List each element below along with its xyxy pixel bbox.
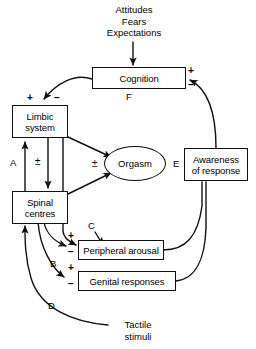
node-cognition-label: Cognition bbox=[119, 73, 158, 84]
edge-awareness-to-cognition bbox=[190, 80, 216, 148]
node-limbic-label-line1: Limbic bbox=[27, 111, 54, 122]
diagram-canvas: Attitudes Fears Expectations Cognition F… bbox=[0, 0, 256, 349]
sign-cognition-plus: + bbox=[188, 66, 194, 76]
sign-genital-minus: – bbox=[68, 279, 74, 289]
bottom-stimulus-text: Tactile stimuli bbox=[108, 319, 168, 342]
sign-cognition-minus: – bbox=[188, 80, 194, 90]
path-label-f: F bbox=[126, 91, 132, 102]
node-peripheral-arousal[interactable]: Peripheral arousal bbox=[78, 240, 164, 260]
sign-orgasm-pm: ± bbox=[92, 159, 98, 169]
path-label-d: D bbox=[48, 300, 55, 311]
node-peripheral-label: Peripheral arousal bbox=[83, 245, 158, 256]
edge-spinal-to-orgasm bbox=[68, 173, 111, 194]
edge-limbic-to-orgasm bbox=[68, 137, 111, 157]
path-label-a: A bbox=[10, 157, 16, 168]
node-limbic-system[interactable]: Limbic system bbox=[12, 105, 68, 138]
node-genital-label: Genital responses bbox=[90, 276, 165, 287]
node-spinal-centres[interactable]: Spinal centres bbox=[12, 191, 68, 224]
node-awareness-label-line2: of response bbox=[192, 165, 241, 176]
sign-peripheral-minus: – bbox=[68, 247, 74, 257]
path-label-c: C bbox=[88, 220, 95, 231]
sign-limbic-minus: – bbox=[54, 93, 60, 103]
node-spinal-label-line2: centres bbox=[25, 208, 55, 219]
edge-peripheral-to-awareness bbox=[163, 182, 202, 250]
node-spinal-label-line1: Spinal bbox=[27, 197, 53, 208]
node-genital-responses[interactable]: Genital responses bbox=[78, 271, 176, 291]
node-awareness-label-line1: Awareness bbox=[193, 154, 239, 165]
sign-limbic-plus: + bbox=[27, 93, 33, 103]
sign-limbic-spinal-pm: ± bbox=[35, 157, 41, 167]
sign-genital-plus: + bbox=[68, 263, 74, 273]
node-limbic-label-line2: system bbox=[25, 122, 55, 133]
stimulus-line-fears: Fears bbox=[85, 16, 183, 28]
top-stimulus-text: Attitudes Fears Expectations bbox=[85, 4, 183, 39]
stimulus-line-attitudes: Attitudes bbox=[85, 4, 183, 16]
node-orgasm-label: Orgasm bbox=[118, 158, 152, 169]
stimulus-line-expectations: Expectations bbox=[85, 27, 183, 39]
edge-cognition-to-limbic bbox=[44, 77, 92, 99]
stimulus-line-tactile: Tactile bbox=[108, 319, 168, 331]
path-label-b: B bbox=[50, 258, 56, 269]
sign-peripheral-plus: + bbox=[68, 231, 74, 241]
node-orgasm[interactable]: Orgasm bbox=[104, 146, 166, 181]
node-awareness-of-response[interactable]: Awareness of response bbox=[184, 148, 248, 181]
node-cognition[interactable]: Cognition bbox=[92, 67, 186, 89]
stimulus-line-stimuli: stimuli bbox=[108, 331, 168, 343]
path-label-e: E bbox=[173, 158, 179, 169]
